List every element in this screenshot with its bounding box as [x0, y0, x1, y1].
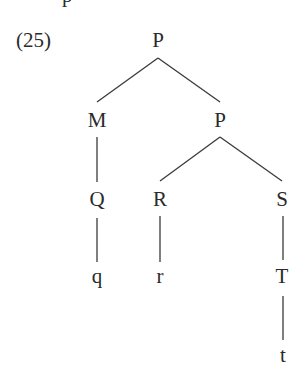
edge-root-m	[97, 58, 158, 102]
node-r: R	[153, 189, 167, 210]
edge-p2-r	[160, 137, 220, 181]
leaf-q: q	[92, 266, 103, 287]
leaf-t: t	[280, 345, 286, 366]
node-m: M	[88, 110, 107, 131]
node-s: S	[276, 189, 288, 210]
node-t: T	[276, 266, 289, 287]
leaf-r: r	[157, 266, 164, 287]
edge-p2-s	[220, 137, 282, 181]
node-root-p: P	[152, 30, 164, 51]
edge-root-p2	[158, 58, 220, 102]
node-q: Q	[89, 189, 104, 210]
node-inner-p: P	[214, 110, 226, 131]
